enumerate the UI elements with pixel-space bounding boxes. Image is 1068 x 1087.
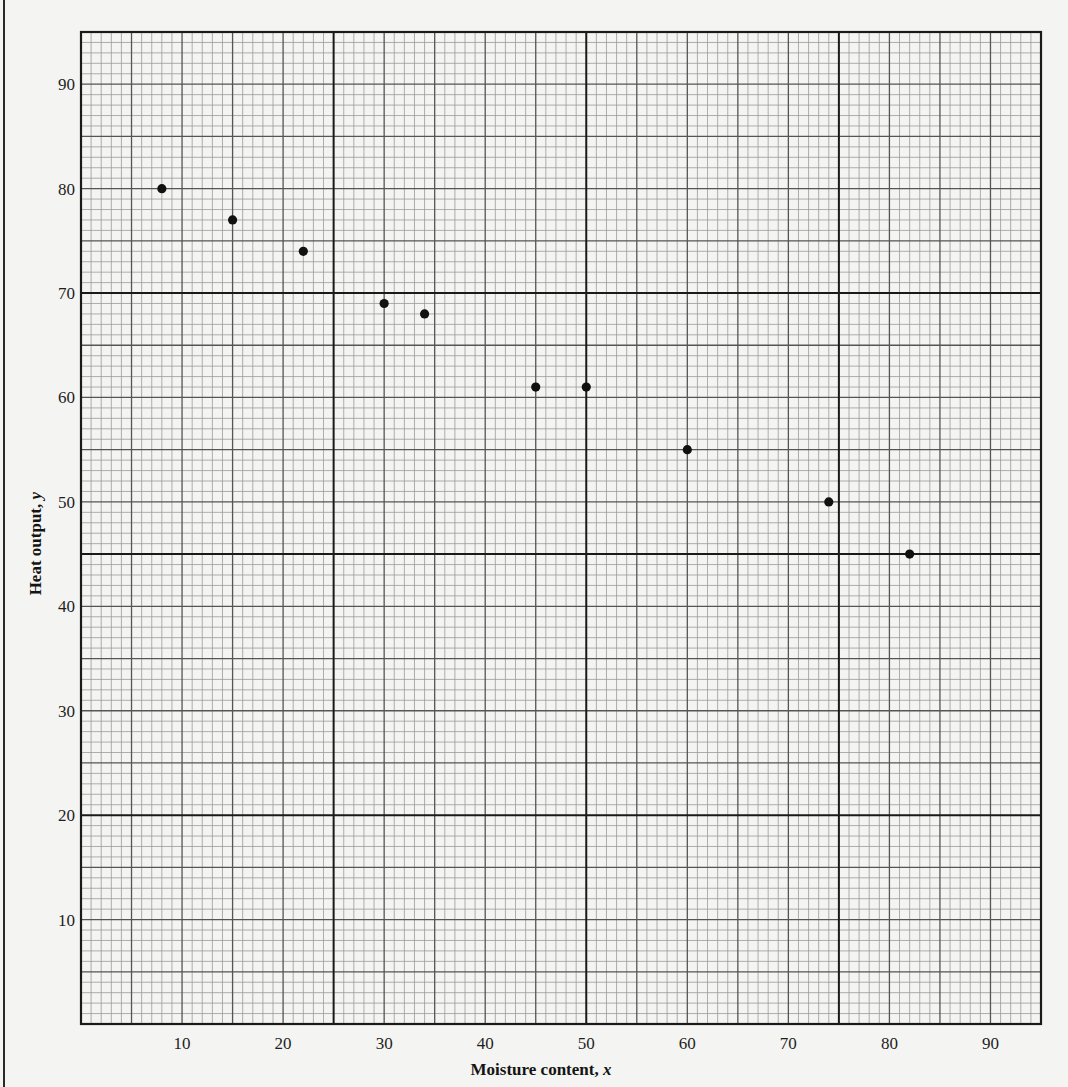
y-tick-label: 60 [58, 388, 75, 407]
data-point [299, 247, 308, 256]
x-tick-label: 80 [881, 1034, 898, 1053]
data-point [824, 497, 833, 506]
y-axis-title-text: Heat output, [26, 499, 45, 595]
x-tick-label: 60 [679, 1034, 696, 1053]
data-point [905, 550, 914, 559]
y-tick-label: 70 [58, 284, 75, 303]
x-tick-label: 10 [174, 1034, 191, 1053]
data-point [582, 382, 591, 391]
x-tick-label: 70 [780, 1034, 797, 1053]
data-point [380, 299, 389, 308]
x-axis-title-text: Moisture content, [471, 1060, 603, 1079]
major-grid [81, 32, 1041, 1024]
x-tick-label: 50 [578, 1034, 595, 1053]
y-axis-tick-labels: 102030405060708090 [58, 75, 75, 929]
y-tick-label: 90 [58, 75, 75, 94]
scatter-chart: 102030405060708090 102030405060708090 Mo… [0, 0, 1068, 1087]
data-point [531, 382, 540, 391]
x-axis-tick-labels: 102030405060708090 [174, 1034, 999, 1053]
medium-grid [81, 32, 1041, 1024]
x-axis-title: Moisture content, x [471, 1060, 612, 1079]
y-tick-label: 30 [58, 702, 75, 721]
x-axis-variable: x [602, 1060, 612, 1079]
y-tick-label: 80 [58, 180, 75, 199]
plot-frame [81, 32, 1041, 1024]
data-point [228, 215, 237, 224]
data-point [683, 445, 692, 454]
x-tick-label: 30 [376, 1034, 393, 1053]
y-tick-label: 40 [58, 597, 75, 616]
x-tick-label: 40 [477, 1034, 494, 1053]
data-point [420, 309, 429, 318]
y-axis-title: Heat output, y [26, 491, 45, 595]
y-tick-label: 20 [58, 806, 75, 825]
x-tick-label: 20 [275, 1034, 292, 1053]
x-tick-label: 90 [982, 1034, 999, 1053]
y-axis-variable: y [26, 491, 45, 501]
data-point [157, 184, 166, 193]
minor-grid [81, 32, 1041, 1024]
y-tick-label: 50 [58, 493, 75, 512]
y-tick-label: 10 [58, 911, 75, 930]
